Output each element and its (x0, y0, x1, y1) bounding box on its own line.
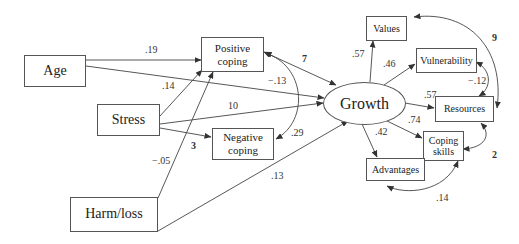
node-negative-coping-label: Negative coping (223, 131, 263, 156)
node-values-label: Values (373, 23, 400, 35)
node-growth-label: Growth (340, 95, 389, 113)
node-vulnerability: Vulnerability (416, 48, 477, 73)
coef-harm-positive: −.05 (152, 155, 170, 166)
coef-stress-negative: 3 (191, 140, 196, 151)
node-positive-coping-label: Positive coping (215, 42, 250, 67)
path-growth-resources (405, 103, 434, 108)
coef-vulnerability-resources-cov: −.12 (468, 75, 486, 86)
coef-growth-resources: .57 (424, 89, 437, 100)
node-resources: Resources (435, 96, 494, 122)
path-diagram: Age Stress Harm/loss Positive coping Neg… (0, 0, 519, 244)
node-advantages-label: Advantages (372, 164, 419, 176)
node-resources-label: Resources (444, 103, 485, 115)
coef-resources-coping-cov: 2 (492, 149, 497, 160)
node-advantages: Advantages (366, 158, 425, 181)
path-growth-values (370, 41, 373, 82)
node-harm-loss: Harm/loss (70, 197, 158, 232)
coef-harm-growth: .13 (271, 170, 284, 181)
coef-growth-vulnerability: .46 (383, 58, 396, 69)
cov-resources-coping (463, 123, 486, 149)
node-stress-label: Stress (112, 112, 145, 128)
coef-positive-growth-cov: 7 (302, 53, 307, 64)
node-age: Age (24, 55, 86, 87)
node-vulnerability-label: Vulnerability (420, 55, 473, 67)
coef-growth-advantages: .42 (375, 126, 388, 137)
node-values: Values (366, 16, 407, 41)
coef-stress-positive: .14 (162, 80, 175, 91)
node-coping-skills: Coping skills (423, 131, 464, 161)
coef-positive-negative-cov: .29 (291, 127, 304, 138)
node-negative-coping: Negative coping (212, 128, 274, 160)
node-stress: Stress (97, 104, 160, 136)
node-age-label: Age (43, 63, 66, 79)
coef-age-growth: −.13 (268, 75, 286, 86)
node-harm-loss-label: Harm/loss (85, 206, 143, 222)
node-growth: Growth (323, 82, 406, 125)
node-coping-skills-label: Coping skills (429, 135, 458, 158)
coef-coping-advantages-cov: .14 (436, 192, 449, 203)
node-positive-coping: Positive coping (201, 37, 264, 72)
coef-age-positive: .19 (145, 44, 158, 55)
coef-growth-values: .57 (352, 48, 365, 59)
coef-growth-coping: .74 (408, 114, 421, 125)
coef-values-resources-cov: 9 (492, 32, 497, 43)
coef-stress-growth: 10 (228, 100, 238, 111)
